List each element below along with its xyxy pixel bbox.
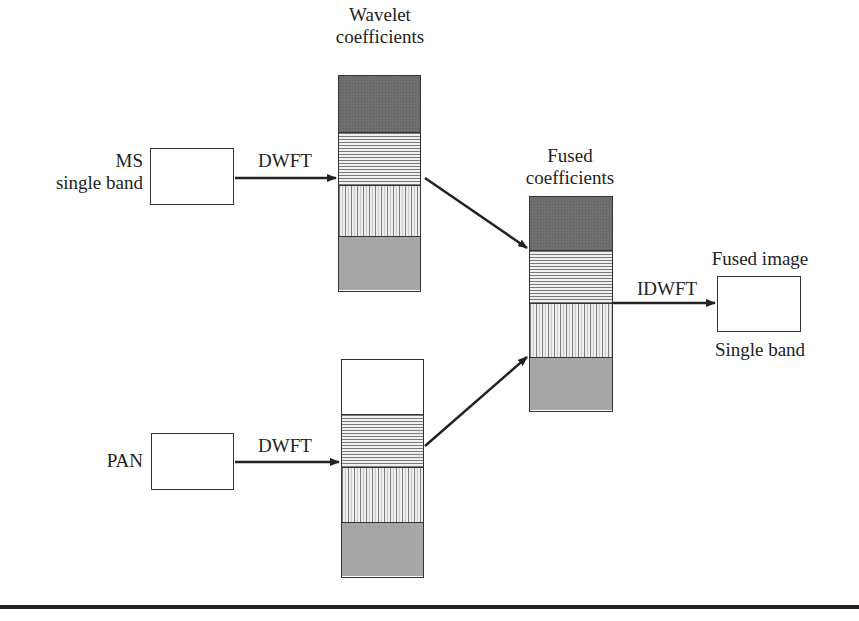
flow-arrows	[0, 0, 859, 621]
bottom-rule	[0, 605, 859, 609]
wavelet-to-fused-arrow	[425, 178, 527, 248]
pan-coefficients-to-fused-arrow	[425, 357, 527, 446]
